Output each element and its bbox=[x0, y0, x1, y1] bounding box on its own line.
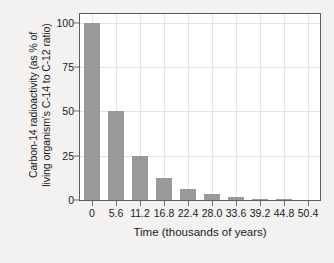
x-axis-tick-labels: 05.611.216.822.428.033.639.244.850.4 bbox=[79, 207, 321, 223]
gridline-vertical bbox=[260, 14, 261, 200]
gridline-vertical bbox=[236, 14, 237, 200]
x-tick-label: 44.8 bbox=[274, 207, 294, 219]
gridline-vertical bbox=[284, 14, 285, 200]
bar bbox=[156, 178, 172, 200]
gridline-vertical bbox=[188, 14, 189, 200]
x-tick-mark bbox=[164, 201, 165, 206]
x-tick-label: 39.2 bbox=[250, 207, 270, 219]
x-tick-label: 0 bbox=[89, 207, 95, 219]
y-axis-title-line-1: Carbon-14 radioactivity (as % of bbox=[27, 23, 40, 186]
y-tick-label: 25 bbox=[62, 150, 74, 162]
x-tick-mark bbox=[284, 201, 285, 206]
x-tick-label: 33.6 bbox=[226, 207, 246, 219]
y-tick-label: 100 bbox=[56, 17, 74, 29]
x-axis-title: Time (thousands of years) bbox=[79, 226, 321, 238]
x-tick-mark bbox=[236, 201, 237, 206]
y-axis-tick-labels: 0255075100 bbox=[50, 13, 74, 201]
x-tick-mark bbox=[188, 201, 189, 206]
x-tick-mark bbox=[212, 201, 213, 206]
chart-figure: Carbon-14 radioactivity (as % of living … bbox=[0, 0, 334, 263]
gridline-vertical bbox=[308, 14, 309, 200]
bar bbox=[180, 189, 196, 200]
plot-inner bbox=[80, 14, 320, 200]
x-tick-mark bbox=[260, 201, 261, 206]
x-tick-label: 16.8 bbox=[154, 207, 174, 219]
x-tick-label: 28.0 bbox=[202, 207, 222, 219]
x-tick-label: 5.6 bbox=[109, 207, 124, 219]
x-tick-label: 11.2 bbox=[130, 207, 150, 219]
x-tick-label: 50.4 bbox=[298, 207, 318, 219]
x-tick-mark bbox=[116, 201, 117, 206]
y-tick-label: 75 bbox=[62, 61, 74, 73]
x-tick-label: 22.4 bbox=[178, 207, 198, 219]
bar bbox=[108, 111, 124, 200]
gridline-vertical bbox=[164, 14, 165, 200]
x-axis-tick-marks bbox=[79, 201, 321, 206]
bar bbox=[228, 197, 244, 200]
bar bbox=[204, 194, 220, 200]
x-tick-mark bbox=[92, 201, 93, 206]
x-tick-mark bbox=[308, 201, 309, 206]
bar bbox=[276, 199, 292, 200]
bar bbox=[252, 199, 268, 200]
bar bbox=[132, 156, 148, 200]
y-tick-label: 50 bbox=[62, 105, 74, 117]
bar bbox=[84, 23, 100, 200]
gridline-vertical bbox=[212, 14, 213, 200]
x-tick-mark bbox=[140, 201, 141, 206]
plot-area bbox=[79, 13, 321, 201]
